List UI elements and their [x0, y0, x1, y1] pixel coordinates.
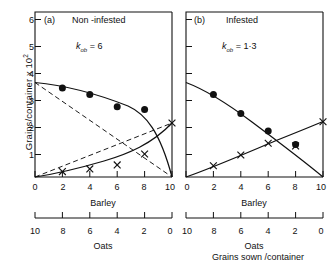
- panel-a-x-ticks: [35, 171, 172, 177]
- data-point: [210, 91, 217, 98]
- panel-b-oats-fitted-curve: [186, 122, 323, 178]
- panel-b-x-ticks: [186, 171, 323, 177]
- data-point: [141, 106, 148, 113]
- data-point-x: [141, 151, 148, 158]
- data-point: [86, 91, 93, 98]
- panel-a-frame: [35, 12, 172, 177]
- data-point: [237, 110, 244, 117]
- panel-b-oats-ruler: [186, 212, 323, 218]
- data-point: [265, 128, 272, 135]
- data-point: [114, 103, 121, 110]
- panel-a-oats-expected-line: [35, 123, 172, 177]
- panel-a-oats-ruler: [35, 212, 172, 218]
- figure-root: Grains/container x 102 6 5 4 3 2 1 (a) N…: [0, 0, 333, 269]
- data-point: [292, 141, 299, 148]
- data-point: [59, 84, 66, 91]
- data-point-x: [114, 162, 121, 169]
- panel-b-y-ticks: [186, 20, 192, 155]
- panel-a-oats-points: [59, 120, 175, 175]
- panel-b-frame: [186, 12, 323, 177]
- plot-canvas: [0, 0, 333, 269]
- panel-b-barley-points: [210, 91, 299, 148]
- panel-a-y-ticks: [35, 20, 41, 155]
